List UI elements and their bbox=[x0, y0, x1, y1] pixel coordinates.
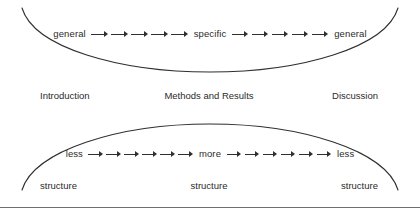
caption-structure-right: structure bbox=[268, 181, 400, 191]
right-arrow-icon bbox=[111, 30, 128, 39]
right-arrow-icon bbox=[281, 150, 296, 159]
caption-introduction: Introduction bbox=[20, 91, 150, 101]
top-flow-end-label: general bbox=[334, 29, 366, 39]
bottom-flow-start-label: less bbox=[66, 149, 83, 159]
caption-structure-left: structure bbox=[20, 181, 150, 191]
right-arrow-icon bbox=[227, 150, 242, 159]
top-flow-start-label: general bbox=[53, 29, 85, 39]
right-arrow-icon bbox=[263, 150, 278, 159]
bottom-flow-end-label: less bbox=[337, 149, 354, 159]
right-arrow-icon bbox=[299, 150, 314, 159]
right-arrow-icon bbox=[88, 150, 103, 159]
top-flow-row: general specific general bbox=[40, 27, 380, 41]
caption-discussion: Discussion bbox=[268, 91, 400, 101]
bottom-arrows-after-middle bbox=[225, 150, 333, 159]
right-arrow-icon bbox=[312, 30, 329, 39]
bottom-flow-middle-label: more bbox=[199, 149, 221, 159]
caption-methods-and-results: Methods and Results bbox=[150, 91, 268, 101]
right-arrow-icon bbox=[245, 150, 260, 159]
top-flow-middle-label: specific bbox=[194, 29, 226, 39]
footer-rule bbox=[0, 207, 420, 208]
right-arrow-icon bbox=[272, 30, 289, 39]
right-arrow-icon bbox=[178, 150, 193, 159]
right-arrow-icon bbox=[317, 150, 332, 159]
right-arrow-icon bbox=[91, 30, 108, 39]
right-arrow-icon bbox=[171, 30, 188, 39]
right-arrow-icon bbox=[160, 150, 175, 159]
right-arrow-icon bbox=[151, 30, 168, 39]
caption-structure-center: structure bbox=[150, 181, 268, 191]
top-arrows-before-middle bbox=[90, 30, 190, 39]
bottom-flow-row: less more less bbox=[40, 147, 380, 161]
top-caption-row: Introduction Methods and Results Discuss… bbox=[20, 91, 400, 101]
right-arrow-icon bbox=[106, 150, 121, 159]
right-arrow-icon bbox=[142, 150, 157, 159]
bottom-arrows-before-middle bbox=[87, 150, 195, 159]
right-arrow-icon bbox=[124, 150, 139, 159]
right-arrow-icon bbox=[232, 30, 249, 39]
right-arrow-icon bbox=[131, 30, 148, 39]
bottom-caption-row: structure structure structure bbox=[20, 181, 400, 191]
hourglass-figure: general specific general Introduction Me… bbox=[0, 0, 420, 217]
top-arrows-after-middle bbox=[230, 30, 330, 39]
right-arrow-icon bbox=[292, 30, 309, 39]
right-arrow-icon bbox=[252, 30, 269, 39]
